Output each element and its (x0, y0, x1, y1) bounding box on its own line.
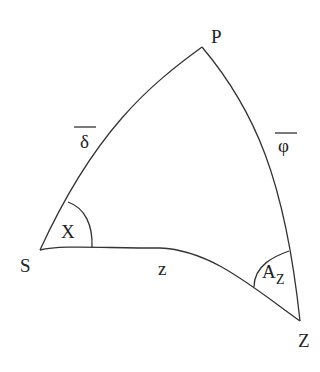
side-ps (40, 47, 202, 250)
side-sz (40, 247, 300, 321)
vertex-label-p: P (211, 26, 222, 47)
vertex-label-z: Z (298, 330, 310, 351)
angle-label-x: X (61, 221, 75, 242)
vertex-label-s: S (20, 255, 31, 276)
diagram-svg: P S Z δ φ z X A Z (0, 0, 320, 372)
spherical-triangle-diagram: P S Z δ φ z X A Z (0, 0, 320, 372)
side-label-z: z (158, 258, 166, 279)
angle-label-a: A (262, 261, 276, 282)
angle-label-a-subscript: Z (276, 272, 285, 287)
side-pz (202, 47, 300, 321)
side-label-phi: φ (278, 135, 289, 156)
side-label-delta: δ (80, 131, 89, 152)
